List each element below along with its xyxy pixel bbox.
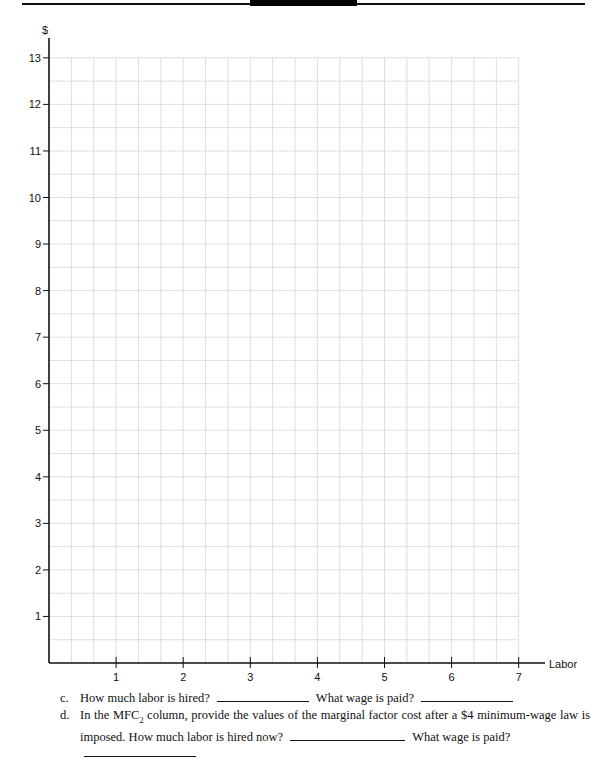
question-c-text-2: What wage is paid? (316, 691, 414, 705)
x-tick-label: 2 (180, 671, 186, 683)
x-tick-label: 3 (247, 671, 253, 683)
question-letter: d. (60, 707, 69, 724)
y-tick-label: 7 (35, 331, 41, 343)
x-axis-label: Labor (549, 658, 577, 670)
questions: c. How much labor is hired? What wage is… (60, 690, 590, 761)
y-tick-label: 13 (29, 52, 41, 64)
tick-marks (43, 58, 519, 668)
question-c-text-1: How much labor is hired? (80, 691, 210, 705)
x-tick-label: 4 (314, 671, 320, 683)
y-tick-label: 4 (35, 471, 41, 483)
question-d-text-1a: In the MFC (80, 708, 139, 722)
y-axis-label: $ (42, 24, 48, 36)
question-d-text-2a: imposed. How much labor is hired now? (80, 730, 283, 744)
question-letter: c. (60, 690, 69, 707)
x-tick-label: 5 (381, 671, 387, 683)
answer-blank-wage-paid-now[interactable] (84, 745, 196, 757)
y-tick-label: 9 (35, 238, 41, 250)
question-c: c. How much labor is hired? What wage is… (60, 690, 590, 707)
y-tick-label: 5 (35, 424, 41, 436)
x-tick-label: 7 (516, 671, 522, 683)
axes (49, 38, 545, 663)
y-tick-label: 10 (29, 192, 41, 204)
y-tick-label: 11 (30, 145, 41, 157)
y-tick-label: 3 (35, 517, 41, 529)
y-tick-label: 1 (35, 610, 41, 622)
y-tick-label: 8 (35, 285, 41, 297)
x-tick-label: 1 (113, 671, 119, 683)
answer-blank-wage-paid[interactable] (421, 690, 513, 702)
y-tick-label: 2 (35, 564, 41, 576)
y-tick-label: 6 (35, 378, 41, 390)
tick-labels: 123456789101112131234567 (29, 52, 522, 683)
answer-blank-labor-hired[interactable] (217, 690, 309, 702)
grid-lines (49, 58, 519, 663)
answer-blank-labor-hired-now[interactable] (290, 729, 405, 741)
question-d: d. In the MFC2 column, provide the value… (60, 707, 590, 761)
question-d-text-1b: column, provide the values of the margin… (143, 708, 590, 722)
y-tick-label: 12 (29, 98, 41, 110)
x-tick-label: 6 (449, 671, 455, 683)
question-d-text-2b: What wage is paid? (412, 730, 510, 744)
graph: 123456789101112131234567 $ Labor (0, 0, 612, 690)
